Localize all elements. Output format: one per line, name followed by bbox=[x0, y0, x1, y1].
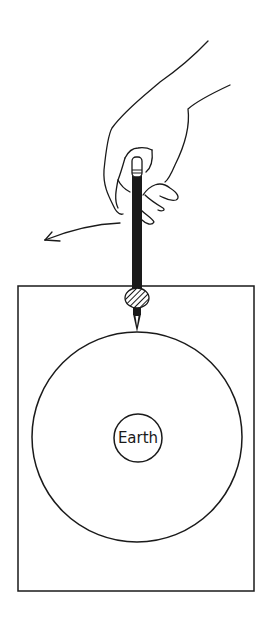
pencil-eraser bbox=[132, 157, 142, 177]
pivot-knob-icon bbox=[125, 288, 149, 308]
earth-label: Earth bbox=[118, 429, 158, 447]
hand-icon bbox=[104, 41, 230, 224]
earth: Earth bbox=[114, 414, 162, 462]
pencil bbox=[125, 157, 149, 332]
pencil-body bbox=[132, 175, 142, 293]
orbit-drawing-diagram: Earth bbox=[0, 0, 274, 621]
motion-arrow-icon bbox=[45, 223, 120, 241]
